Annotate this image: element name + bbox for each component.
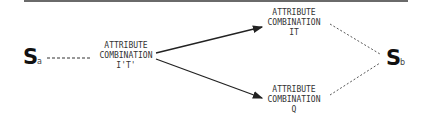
node-line: COMBINATION <box>96 51 156 61</box>
end-symbol: S <box>386 46 401 70</box>
end-subscript: b <box>400 58 405 67</box>
start-symbol: S <box>23 45 38 69</box>
end-state: S <box>386 48 401 69</box>
node-line: ATTRIBUTE <box>264 8 324 18</box>
start-state: S <box>23 47 38 68</box>
node-attribute-combination-it: ATTRIBUTE COMBINATION IT <box>264 8 324 38</box>
node-attribute-combination-q: ATTRIBUTE COMBINATION Q <box>264 85 324 115</box>
start-subscript: a <box>37 57 42 66</box>
diagram-edges <box>0 0 425 127</box>
edge-itprime-to-q <box>156 59 262 98</box>
edge-itprime-to-it <box>156 27 262 53</box>
node-line: COMBINATION <box>264 95 324 105</box>
node-line: I'T' <box>96 61 156 71</box>
node-line: ATTRIBUTE <box>264 85 324 95</box>
edge-it-to-sb <box>330 24 380 54</box>
node-attribute-combination-itprime: ATTRIBUTE COMBINATION I'T' <box>96 41 156 71</box>
node-line: Q <box>264 105 324 115</box>
edge-q-to-sb <box>330 63 380 95</box>
node-line: COMBINATION <box>264 18 324 28</box>
node-line: ATTRIBUTE <box>96 41 156 51</box>
node-line: IT <box>264 28 324 38</box>
